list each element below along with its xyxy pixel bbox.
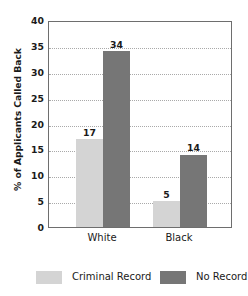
gridline xyxy=(49,74,231,75)
legend-label: Criminal Record xyxy=(72,272,151,282)
gridline xyxy=(49,48,231,49)
x-axis-tick-label-black: Black xyxy=(165,233,192,243)
bar-value-label: 5 xyxy=(163,190,169,199)
gridline xyxy=(49,100,231,101)
legend-label: No Record xyxy=(196,272,247,282)
chart-legend: Criminal Record No Record xyxy=(0,268,248,288)
y-axis-tick-label: 25 xyxy=(18,94,44,103)
bar-white-criminal-record xyxy=(76,139,103,227)
bar-black-criminal-record xyxy=(153,201,180,227)
legend-item-no-record: No Record xyxy=(160,268,247,286)
y-axis-tick-label: 10 xyxy=(18,172,44,181)
y-axis-tick-label: 35 xyxy=(18,42,44,51)
y-axis-tick-label: 15 xyxy=(18,146,44,155)
y-axis-tick-label: 5 xyxy=(18,197,44,206)
bar-white-no-record xyxy=(103,51,130,227)
bar-value-label: 34 xyxy=(110,40,123,49)
y-axis-tick-label: 30 xyxy=(18,68,44,77)
x-axis-tick-label-white: White xyxy=(87,233,116,243)
bar-value-label: 17 xyxy=(83,128,96,137)
y-axis-tick-label: 20 xyxy=(18,120,44,129)
bar-value-label: 14 xyxy=(187,143,200,152)
legend-swatch-icon xyxy=(160,271,186,284)
gridline xyxy=(49,126,231,127)
plot-area: 17 34 5 14 xyxy=(48,21,232,228)
legend-item-criminal-record: Criminal Record xyxy=(36,268,151,286)
legend-swatch-icon xyxy=(36,271,62,284)
y-axis-tick-label: 40 xyxy=(18,16,44,25)
y-axis-tick-label: 0 xyxy=(18,223,44,232)
bar-chart-figure: % of Applicants Called Back 40 35 30 25 … xyxy=(0,0,248,296)
bar-black-no-record xyxy=(180,155,207,228)
